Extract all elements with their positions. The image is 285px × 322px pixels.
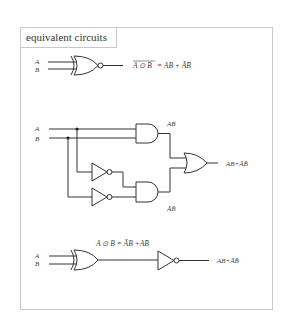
xnor-gate (74, 56, 98, 75)
wire-and-top-to-or (158, 134, 186, 159)
inverter-a-bubble (107, 170, 112, 175)
inverter-a (92, 163, 107, 181)
wire-and-bottom-to-or (158, 168, 186, 192)
inverter-output (158, 251, 174, 270)
xor-input-curve (71, 250, 74, 270)
input-label-b: B (35, 66, 40, 74)
inverter-output-bubble (174, 258, 179, 263)
equivalent-circuits-diagram: equivalent circuits A B A ⊙ B = AB + ĀB̄… (0, 0, 285, 322)
circuit-xnor: A B A ⊙ B = AB + ĀB̄ (34, 56, 191, 75)
or-output-label: AB+ĀB̄ (225, 160, 249, 168)
and-gate-top (136, 124, 158, 143)
circuit-and-or: A B AB ĀB̄ AB+ĀB̄ (34, 120, 249, 213)
xnor-equation-lhs: A ⊙ B (132, 61, 152, 70)
wire-b-to-inverter (68, 138, 92, 197)
inverter-b (92, 188, 107, 206)
and-top-label: AB (166, 120, 176, 128)
input-label-a: A (34, 125, 40, 133)
input-label-b: B (35, 260, 40, 268)
xnor-input-curve (71, 56, 74, 75)
wire-not-a-to-and (112, 172, 136, 187)
xor-gate (74, 250, 98, 270)
xnor-equation-rhs: = AB + ĀB̄ (157, 61, 191, 70)
wire-a-to-inverter (77, 129, 92, 172)
or-gate (184, 153, 207, 173)
input-label-a: A (34, 58, 40, 66)
and-gate-bottom (136, 182, 158, 202)
final-output-label: AB+ĀB̄ (216, 257, 240, 265)
and-bottom-label: ĀB̄ (166, 205, 176, 213)
diagram-title: equivalent circuits (26, 31, 107, 43)
input-label-b: B (35, 135, 40, 143)
xnor-bubble (98, 63, 103, 68)
xor-label: A ⊙ B = ĀB +AB̄ (95, 239, 149, 248)
inverter-b-bubble (107, 195, 112, 200)
circuit-xor-not: A B A ⊙ B = ĀB +AB̄ AB+ĀB̄ (34, 239, 240, 270)
input-label-a: A (34, 252, 40, 260)
